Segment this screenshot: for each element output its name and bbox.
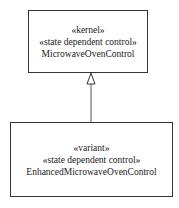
class-name: MicrowaveOvenControl <box>42 48 135 60</box>
stereotype-state-dependent-control: «state dependent control» <box>43 154 141 166</box>
class-box-microwave-oven-control: «kernel» «state dependent control» Micro… <box>28 10 148 73</box>
class-box-enhanced-microwave-oven-control: «variant» «state dependent control» Enha… <box>10 122 173 197</box>
hollow-triangle-icon <box>87 73 95 84</box>
stereotype-state-dependent-control: «state dependent control» <box>39 36 137 48</box>
stereotype-kernel: «kernel» <box>71 24 104 36</box>
class-name: EnhancedMicrowaveOvenControl <box>26 166 156 178</box>
stereotype-variant: «variant» <box>74 142 110 154</box>
